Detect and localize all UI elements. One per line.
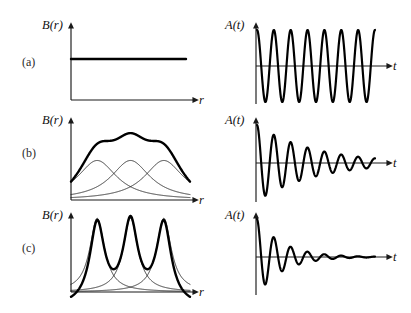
axis-label-b-of-r: B(r) <box>42 208 63 222</box>
curve-b-component <box>71 160 190 197</box>
axis-label-r: r <box>199 193 204 207</box>
row-a: (a) B(r) r A(t) t <box>22 18 397 107</box>
curve-a-damped-strong <box>257 219 375 285</box>
axis-label-a-of-t: A(t) <box>224 113 244 127</box>
row-tag-a: (a) <box>22 55 35 69</box>
figure-canvas: (a) B(r) r A(t) t (b) B(r) r <box>0 0 411 313</box>
curve-b-sum <box>71 133 190 181</box>
axis-label-b-of-r: B(r) <box>42 18 63 32</box>
axis-label-t: t <box>393 59 397 73</box>
axis-label-a-of-t: A(t) <box>224 18 244 32</box>
row-tag-c: (c) <box>22 241 35 255</box>
panel-a-left: B(r) r <box>42 18 204 107</box>
axis-label-a-of-t: A(t) <box>224 208 244 222</box>
row-b: (b) B(r) r A(t) t <box>22 113 397 207</box>
panel-a-right: A(t) t <box>224 18 397 104</box>
panel-b-right: A(t) t <box>224 113 397 202</box>
panel-c-left: B(r) r <box>42 208 204 299</box>
axis-label-r: r <box>199 93 204 107</box>
curves-b-components <box>71 160 190 197</box>
panel-b-left: B(r) r <box>42 113 204 207</box>
row-c: (c) B(r) r A(t) t <box>22 208 397 299</box>
curve-b-component <box>71 160 190 197</box>
curve-a-damped-moderate <box>257 125 375 196</box>
panel-c-right: A(t) t <box>224 208 397 295</box>
curve-b-component <box>71 160 190 194</box>
row-tag-b: (b) <box>22 146 36 160</box>
curve-b-sum <box>71 216 190 297</box>
axis-label-b-of-r: B(r) <box>42 113 63 127</box>
axis-label-t: t <box>393 156 397 170</box>
axis-label-t: t <box>393 250 397 264</box>
axis-label-r: r <box>199 285 204 299</box>
